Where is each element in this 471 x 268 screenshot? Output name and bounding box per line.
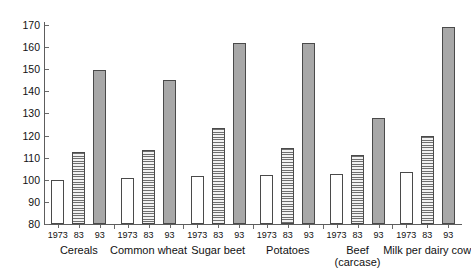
x-axis-group-separator-tick (392, 225, 393, 229)
y-axis-tick (45, 47, 49, 48)
x-axis-year-label: 93 (443, 231, 453, 240)
bar (400, 172, 413, 224)
group-label-line1: Potatoes (266, 244, 309, 256)
x-axis-year-label: 93 (304, 231, 314, 240)
group-label-line1: Beef (346, 244, 369, 256)
x-axis-year-label: 83 (143, 231, 153, 240)
x-axis-tick (267, 225, 268, 228)
x-axis-group-label: Cereals (60, 244, 98, 256)
y-axis-tick (45, 180, 49, 181)
y-axis-tick-label: 140 (8, 86, 40, 96)
x-axis-tick (288, 225, 289, 228)
y-axis-tick (45, 224, 49, 225)
y-axis-tick-label: 170 (8, 20, 40, 30)
y-axis-tick (45, 158, 49, 159)
x-axis-year-label: 83 (283, 231, 293, 240)
x-axis-group-separator-tick (114, 225, 115, 229)
x-axis-year-label: 83 (74, 231, 84, 240)
bar (72, 152, 85, 224)
y-axis-tick-label: 130 (8, 108, 40, 118)
x-axis-year-label: 93 (373, 231, 383, 240)
x-axis-year-label: 93 (234, 231, 244, 240)
x-axis-tick (58, 225, 59, 228)
y-axis-tick-label: 150 (8, 64, 40, 74)
x-axis-group-label: Beef(carcase) (335, 244, 381, 268)
x-axis-tick (239, 225, 240, 228)
x-axis-tick (358, 225, 359, 228)
y-axis-tick-label: 110 (8, 153, 40, 163)
x-axis-tick (218, 225, 219, 228)
x-axis-year-label: 1973 (48, 231, 68, 240)
group-label-line1: Cereals (60, 244, 98, 256)
x-axis-year-label: 83 (422, 231, 432, 240)
bar (51, 180, 64, 224)
y-axis-tick-label: 90 (8, 197, 40, 207)
y-axis-tick (45, 113, 49, 114)
bar (302, 43, 315, 224)
x-axis-year-label: 83 (352, 231, 362, 240)
x-axis-year-label: 1973 (187, 231, 207, 240)
bar (191, 176, 204, 224)
group-label-line1: Common wheat (110, 244, 187, 256)
x-axis-tick (100, 225, 101, 228)
y-axis-tick-label: 160 (8, 42, 40, 52)
y-axis-tick-label: 120 (8, 131, 40, 141)
x-axis-tick (309, 225, 310, 228)
x-axis-tick (448, 225, 449, 228)
y-axis-tick (45, 25, 49, 26)
y-axis-line (44, 22, 45, 225)
bar (421, 136, 434, 224)
bar (260, 175, 273, 224)
bar (442, 27, 455, 224)
bar (142, 150, 155, 224)
x-axis-group-separator-tick (253, 225, 254, 229)
x-axis-tick (406, 225, 407, 228)
x-axis-tick (170, 225, 171, 228)
x-axis-group-label: Potatoes (266, 244, 309, 256)
x-axis-tick (79, 225, 80, 228)
y-axis-tick (45, 91, 49, 92)
bar (351, 155, 364, 224)
x-axis-tick (149, 225, 150, 228)
x-axis-group-separator-tick (323, 225, 324, 229)
x-axis-group-separator-tick (183, 225, 184, 229)
x-axis-tick (427, 225, 428, 228)
group-label-line1: Milk per dairy cow (383, 244, 471, 256)
bar (121, 178, 134, 224)
x-axis-tick (379, 225, 380, 228)
y-axis-tick (45, 69, 49, 70)
x-axis-group-label: Milk per dairy cow (383, 244, 471, 256)
x-axis-tick (128, 225, 129, 228)
y-axis-tick (45, 202, 49, 203)
x-axis-year-label: 1973 (326, 231, 346, 240)
group-label-line2: (carcase) (335, 256, 381, 268)
bar (93, 70, 106, 224)
x-axis-year-label: 1973 (117, 231, 137, 240)
x-axis-year-label: 93 (164, 231, 174, 240)
bar (233, 43, 246, 224)
x-axis-year-label: 83 (213, 231, 223, 240)
x-axis-group-label: Sugar beet (191, 244, 245, 256)
x-axis-year-label: 1973 (257, 231, 277, 240)
x-axis-year-label: 1973 (396, 231, 416, 240)
bar (281, 148, 294, 224)
bar (330, 174, 343, 224)
y-axis-tick-label: 100 (8, 175, 40, 185)
bar (372, 118, 385, 224)
y-axis-tick-label: 80 (8, 219, 40, 229)
group-label-line1: Sugar beet (191, 244, 245, 256)
x-axis-tick (337, 225, 338, 228)
x-axis-group-label: Common wheat (110, 244, 187, 256)
x-axis-tick (197, 225, 198, 228)
bar (212, 128, 225, 224)
y-axis-tick (45, 136, 49, 137)
x-axis-year-label: 93 (95, 231, 105, 240)
bar (163, 80, 176, 224)
